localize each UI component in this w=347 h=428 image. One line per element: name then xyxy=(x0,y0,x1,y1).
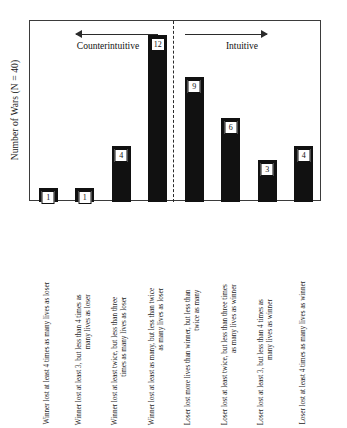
plot-area: Counterintuitive Intuitive 1 1 4 12 9 6 xyxy=(29,20,321,201)
x-axis-label: Winner lost at least twice, but less tha… xyxy=(102,203,139,425)
bar[interactable]: 1 xyxy=(75,188,94,202)
y-axis-title-wrap: Number of Wars (N = 40) xyxy=(0,20,29,200)
bar[interactable]: 3 xyxy=(258,160,277,202)
bar[interactable]: 6 xyxy=(221,118,240,202)
x-axis-category-labels: Winner lost at least 4 times as many liv… xyxy=(29,203,321,425)
x-axis-label-text: Loser lost at least 4 times as many live… xyxy=(298,281,307,425)
x-axis-label: Winner lost at least 4 times as many liv… xyxy=(29,203,66,425)
bar-value-label: 4 xyxy=(297,149,310,162)
x-axis-label-text: Winner lost at least 4 times as many liv… xyxy=(43,282,52,425)
bar[interactable]: 1 xyxy=(39,188,58,202)
chart-figure: Number of Wars (N = 40) Counterintuitive… xyxy=(0,0,347,428)
x-axis-label: Loser lost at least twice, but less than… xyxy=(212,203,249,425)
x-axis-label: Loser lost at least 4 times as many live… xyxy=(285,203,322,425)
y-axis-title: Number of Wars (N = 40) xyxy=(10,60,20,160)
bar[interactable]: 12 xyxy=(148,35,167,202)
x-axis-label: Winner lost at least as many, but less t… xyxy=(139,203,176,425)
x-axis-label-text: Loser lost more lives than winner, but l… xyxy=(185,289,202,425)
bar[interactable]: 4 xyxy=(112,146,131,202)
bar-value-label: 6 xyxy=(224,121,237,134)
x-axis-label: Loser lost at least 3, but less than 4 t… xyxy=(248,203,285,425)
x-axis-label-text: Winner lost at least twice, but less tha… xyxy=(112,297,129,425)
bar-value-label: 3 xyxy=(261,163,274,176)
x-axis-label-text: Loser lost at least 3, but less than 4 t… xyxy=(258,299,275,425)
x-axis-label: Loser lost more lives than winner, but l… xyxy=(175,203,212,425)
x-axis-label-text: Winner lost at least as many, but less t… xyxy=(148,288,165,425)
bar[interactable]: 9 xyxy=(185,77,204,202)
bar-value-label: 9 xyxy=(188,80,201,93)
x-axis-label-text: Winner lost at least 3, but less than 4 … xyxy=(75,294,92,425)
bar-value-label: 12 xyxy=(151,38,165,51)
bar[interactable]: 4 xyxy=(294,146,313,202)
x-axis-label: Winner lost at least 3, but less than 4 … xyxy=(66,203,103,425)
bar-value-label: 4 xyxy=(115,149,128,162)
x-axis-label-text: Loser lost at least twice, but less than… xyxy=(221,284,238,425)
bar-series: 1 1 4 12 9 6 3 4 xyxy=(30,21,322,202)
